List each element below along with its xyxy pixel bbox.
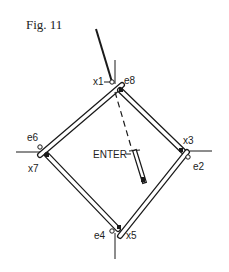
node-x3 (179, 148, 183, 152)
label-x7: x7 (28, 163, 39, 174)
top-diagonal-lead-line (96, 29, 112, 82)
figure-diagram: Fig. 11 x1 e8 e6 x7 x3 e2 e4 x (0, 0, 229, 272)
node-x5 (117, 225, 121, 229)
node-x7 (45, 153, 49, 157)
label-e8: e8 (124, 75, 136, 86)
enter-rod (135, 152, 144, 181)
label-x1: x1 (93, 76, 104, 87)
label-enter: ENTER (93, 149, 127, 160)
label-e4: e4 (94, 230, 106, 241)
node-e2 (186, 155, 190, 159)
label-e6: e6 (27, 132, 39, 143)
node-e4 (110, 229, 114, 233)
node-x1 (110, 80, 114, 84)
enter-rod-tip (141, 177, 145, 182)
node-e6 (38, 145, 42, 149)
rod-top-left (40, 85, 122, 155)
rod-bottom-left (47, 155, 118, 229)
label-x5: x5 (126, 230, 137, 241)
label-x3: x3 (183, 135, 194, 146)
rod-bottom-right (120, 152, 187, 236)
label-e2: e2 (193, 161, 205, 172)
node-e8 (119, 88, 123, 92)
figure-title: Fig. 11 (26, 17, 62, 32)
